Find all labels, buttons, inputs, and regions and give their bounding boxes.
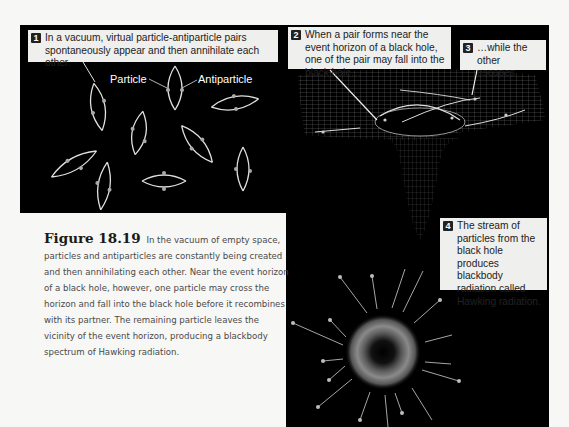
particle-label: Particle xyxy=(110,73,147,85)
figure-caption: Figure 18.19 In the vacuum of empty spac… xyxy=(44,230,289,360)
callout-1-number: 1 xyxy=(31,33,41,43)
hawking-radiation xyxy=(291,269,461,427)
figure-caption-text: In the vacuum of empty space, particles … xyxy=(44,235,289,357)
callout-2: 2 When a pair forms near the event horiz… xyxy=(288,27,451,69)
callout-3-number: 3 xyxy=(463,43,473,53)
callout-3: 3 …while the other escapes. xyxy=(460,40,546,70)
callout-1: 1 In a vacuum, virtual particle-antipart… xyxy=(28,30,278,62)
antiparticle-label: Antiparticle xyxy=(198,73,252,85)
callout-2-number: 2 xyxy=(291,30,301,40)
figure-label: Figure 18.19 xyxy=(44,230,141,246)
callout-4-number: 4 xyxy=(443,221,453,231)
spacetime-grid xyxy=(298,69,545,241)
callout-4: 4 The stream of particles from the black… xyxy=(440,218,547,290)
